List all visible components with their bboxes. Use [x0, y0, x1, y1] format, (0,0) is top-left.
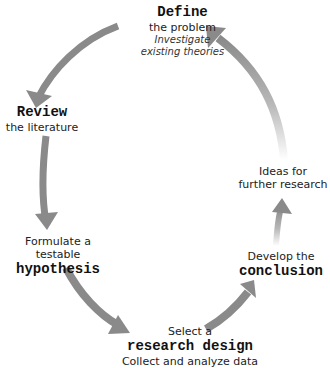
node-research-design: Select a research design Collect and ana… — [120, 325, 260, 368]
arrow-review-to-hypothesis — [35, 136, 58, 230]
node-review: Review the literature — [2, 104, 82, 134]
ideas-line-2: further research — [238, 178, 328, 191]
review-subtitle: the literature — [2, 121, 82, 134]
define-note-1: Investigate — [130, 34, 235, 46]
define-note-2: existing theories — [130, 46, 235, 58]
node-conclusion: Develop the conclusion — [232, 250, 330, 280]
node-ideas: Ideas for further research — [238, 165, 328, 191]
arrow-define-to-review — [26, 26, 118, 108]
arrow-design-to-conclusion — [206, 280, 256, 329]
arrow-conclusion-to-ideas — [272, 198, 292, 246]
conclusion-pre: Develop the — [232, 250, 330, 263]
design-post: Collect and analyze data — [120, 355, 260, 368]
node-define: Define the problem Investigate existing … — [130, 4, 235, 58]
ideas-line-1: Ideas for — [238, 165, 328, 178]
define-title: Define — [130, 4, 235, 21]
design-title: research design — [120, 338, 260, 355]
review-title: Review — [2, 104, 82, 121]
node-hypothesis: Formulate a testable hypothesis — [2, 235, 114, 278]
conclusion-title: conclusion — [232, 263, 330, 280]
design-pre: Select a — [120, 325, 260, 338]
hypothesis-pre: Formulate a testable — [2, 235, 114, 261]
hypothesis-title: hypothesis — [2, 261, 114, 278]
define-subtitle: the problem — [130, 21, 235, 34]
